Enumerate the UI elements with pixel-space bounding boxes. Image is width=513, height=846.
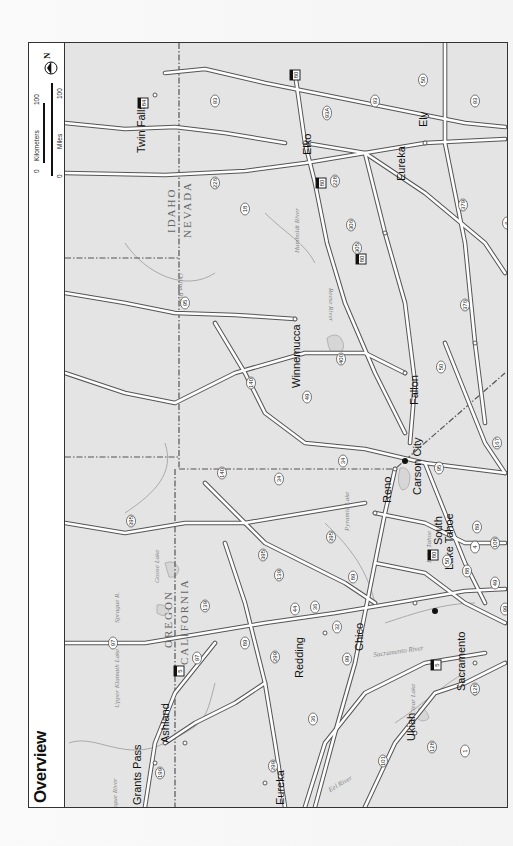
map-frame: Overview N 100 Kilometers 100 Miles <box>28 42 508 808</box>
svg-text:228: 228 <box>332 175 338 186</box>
svg-text:400: 400 <box>338 353 344 364</box>
svg-text:376: 376 <box>462 299 468 310</box>
svg-text:139: 139 <box>276 569 282 580</box>
svg-text:49: 49 <box>304 393 310 400</box>
svg-text:93: 93 <box>212 97 218 104</box>
km-label: Kilometers <box>33 130 40 161</box>
svg-text:34: 34 <box>340 457 346 464</box>
interstate-shields[interactable]: 84 80 80 80 80 80 5 5 5 <box>138 70 507 676</box>
svg-text:50: 50 <box>444 557 450 564</box>
svg-text:95: 95 <box>436 464 442 471</box>
svg-text:395: 395 <box>128 515 134 526</box>
route-shields[interactable]: 93 93 93 93A 50 226 228 18 306 305 95 95… <box>109 74 508 807</box>
highway-shields: 84 80 80 80 80 80 5 5 5 93 93 93 93A 50 … <box>65 43 507 807</box>
svg-text:32: 32 <box>334 623 340 630</box>
svg-text:108: 108 <box>492 537 498 548</box>
north-arrow-icon <box>44 61 58 75</box>
title-strip: Overview N 100 Kilometers 100 Miles <box>29 43 65 807</box>
svg-text:93A: 93A <box>324 108 330 119</box>
map-canvas[interactable]: IDAHO NEVADA OREGON CALIFORNIA Twin Fall… <box>65 43 507 807</box>
svg-text:93: 93 <box>472 97 478 104</box>
mi-bar <box>51 83 53 176</box>
compass: N <box>42 47 60 73</box>
km-bar <box>43 103 45 163</box>
svg-text:93: 93 <box>372 97 378 104</box>
svg-text:140: 140 <box>219 467 225 478</box>
svg-text:128: 128 <box>472 683 478 694</box>
km-zero-label: 0 <box>33 169 40 173</box>
svg-text:140: 140 <box>248 377 254 388</box>
svg-text:88: 88 <box>464 567 470 574</box>
svg-text:299: 299 <box>270 760 276 771</box>
svg-text:395: 395 <box>260 549 266 560</box>
svg-text:128: 128 <box>429 741 435 752</box>
svg-text:139: 139 <box>202 600 208 611</box>
svg-text:80: 80 <box>293 71 299 78</box>
svg-text:34: 34 <box>276 475 282 482</box>
svg-text:50: 50 <box>438 363 444 370</box>
svg-text:199: 199 <box>157 767 163 778</box>
svg-text:97: 97 <box>194 654 200 661</box>
svg-text:80: 80 <box>319 179 325 186</box>
svg-text:299: 299 <box>272 651 278 662</box>
svg-text:167: 167 <box>494 437 500 448</box>
svg-text:99: 99 <box>344 655 350 662</box>
svg-text:89: 89 <box>242 639 248 646</box>
svg-text:44: 44 <box>292 605 298 612</box>
svg-text:50: 50 <box>420 76 426 83</box>
mi-max-label: 100 <box>56 88 63 99</box>
svg-text:80: 80 <box>359 255 365 262</box>
svg-text:226: 226 <box>212 177 218 188</box>
mi-zero-label: 0 <box>56 174 63 178</box>
svg-text:80: 80 <box>431 551 437 558</box>
compass-north-label: N <box>42 53 52 60</box>
svg-text:36: 36 <box>310 715 316 722</box>
svg-text:84: 84 <box>141 99 147 106</box>
scale-bar: 100 Kilometers 100 Miles <box>29 81 65 176</box>
mi-label: Miles <box>56 134 63 149</box>
map-title-text: Overview <box>31 755 51 803</box>
svg-text:49: 49 <box>492 579 498 586</box>
km-max-label: 100 <box>33 94 40 105</box>
svg-text:97: 97 <box>110 639 116 646</box>
svg-text:89: 89 <box>350 573 356 580</box>
svg-text:101: 101 <box>380 755 386 766</box>
svg-text:95: 95 <box>182 299 188 306</box>
svg-text:89: 89 <box>474 523 480 530</box>
svg-text:379: 379 <box>460 199 466 210</box>
svg-text:395: 395 <box>328 531 334 542</box>
svg-text:305: 305 <box>354 242 360 253</box>
svg-text:36: 36 <box>312 603 318 610</box>
km-bar-half <box>42 133 43 163</box>
svg-text:99: 99 <box>502 605 507 612</box>
svg-text:306: 306 <box>348 219 354 230</box>
page: Overview N 100 Kilometers 100 Miles <box>0 0 513 846</box>
svg-text:18: 18 <box>242 205 248 212</box>
